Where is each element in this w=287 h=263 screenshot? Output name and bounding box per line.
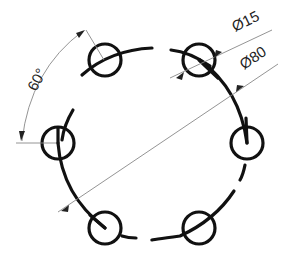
center-marks bbox=[58, 60, 247, 228]
pitch-diameter-label: Ø80 bbox=[236, 43, 269, 73]
holes bbox=[42, 44, 263, 244]
hole-6 bbox=[183, 212, 215, 244]
angle-label: 60° bbox=[24, 65, 50, 93]
technical-drawing: 60° Ø15 Ø80 bbox=[0, 0, 287, 263]
hole-diameter-label: Ø15 bbox=[229, 7, 262, 35]
